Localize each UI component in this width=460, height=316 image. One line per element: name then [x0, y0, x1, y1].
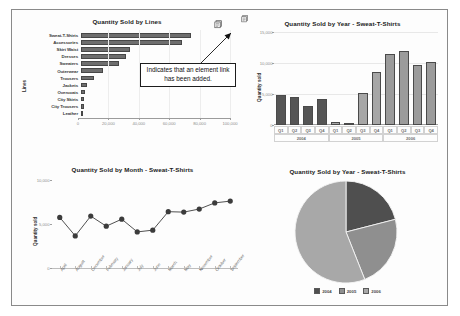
legend-label: 2006	[371, 289, 381, 294]
bar-category-label: Sweaters	[30, 61, 81, 66]
bar-track	[81, 46, 230, 53]
legend-swatch	[363, 288, 369, 294]
bar[interactable]	[81, 97, 84, 102]
axis-tick-label: 40,000	[132, 121, 145, 126]
chart-panel-quantity-sold-by-year-pie[interactable]: Quantity Sold by Year - Sweat-T-Shirts 2…	[250, 162, 445, 302]
bar[interactable]	[399, 51, 409, 125]
axis-label-lines-y: Lines	[22, 80, 27, 92]
axis-tick-mark	[272, 94, 274, 95]
bar-category-label: City Trousers	[30, 104, 81, 109]
axis-tick-label-quarter: Q3	[411, 126, 425, 134]
bar[interactable]	[81, 104, 84, 109]
axis-tick-label-year: 2004	[274, 134, 329, 142]
axis-tick-mark	[108, 118, 109, 120]
data-point-marker[interactable]	[119, 217, 124, 222]
element-link-badge-icon-year-bars[interactable]	[241, 15, 249, 23]
bar[interactable]	[426, 62, 436, 125]
axis-tick-label: 5,000	[39, 222, 49, 227]
axis-tick-mark	[78, 118, 79, 120]
legend-item[interactable]: 2004	[314, 288, 332, 294]
data-point-marker[interactable]	[104, 224, 109, 229]
pie-slices	[294, 180, 398, 284]
data-point-marker[interactable]	[150, 228, 155, 233]
bar[interactable]	[372, 72, 382, 125]
axis-tick-label: 100,000	[222, 121, 237, 126]
callout-annotation-text: Indicates that an element link has been …	[144, 66, 232, 83]
bar-category-label: Trousers	[30, 76, 81, 81]
axis-tick-label-quarter: Q3	[301, 126, 315, 134]
chart-panel-quantity-sold-by-month[interactable]: Quantity Sold by Month - Sweat-T-Shirts …	[20, 162, 245, 302]
bar[interactable]	[81, 40, 182, 45]
bar-track	[81, 110, 230, 117]
data-point-marker[interactable]	[135, 229, 140, 234]
bar[interactable]	[81, 83, 87, 88]
axis-tick-label: 10,000	[37, 178, 50, 183]
bar[interactable]	[358, 93, 368, 125]
axis-tick-label-quarter: Q2	[342, 126, 356, 134]
axis-tick-label: 10,000	[260, 61, 273, 66]
bar[interactable]	[81, 111, 83, 116]
data-point-marker[interactable]	[228, 199, 233, 204]
bar[interactable]	[344, 123, 354, 125]
plot-area-pie	[294, 180, 398, 284]
bar[interactable]	[81, 54, 126, 59]
legend-item[interactable]: 2005	[339, 288, 357, 294]
bar-category-label: Accessories	[30, 40, 81, 45]
element-link-badge-icon-lines[interactable]	[214, 20, 223, 29]
axis-tick-mark	[272, 63, 274, 64]
chart-title-pie: Quantity Sold by Year - Sweat-T-Shirts	[250, 168, 445, 175]
axis-tick-label-year: 2005	[329, 134, 384, 142]
gridline	[274, 32, 438, 33]
bar-category-label: Leather	[30, 111, 81, 116]
bar-category-label: Outerwear	[30, 69, 81, 74]
chart-panel-quantity-sold-by-year-bars[interactable]: Quantity Sold by Year - Sweat-T-Shirts Q…	[240, 14, 445, 157]
data-point-marker[interactable]	[88, 213, 93, 218]
bar-track	[81, 103, 230, 110]
axis-ticks-year-bars-years: 200420052006	[274, 134, 438, 142]
axis-label-year-bars-y: Quantity sold	[257, 73, 262, 102]
callout-annotation: Indicates that an element link has been …	[140, 63, 236, 87]
bar[interactable]	[413, 65, 423, 125]
axis-tick-label-year: 2006	[383, 134, 438, 142]
legend-swatch	[339, 288, 345, 294]
data-point-marker[interactable]	[166, 209, 171, 214]
axis-tick-label-quarter: Q2	[288, 126, 302, 134]
axis-ticks-year-bars-quarters: Q1Q2Q3Q4Q1Q2Q3Q4Q1Q2Q3Q4	[274, 126, 438, 134]
axis-tick-label-quarter: Q3	[356, 126, 370, 134]
data-point-marker[interactable]	[73, 233, 78, 238]
gridline	[108, 30, 109, 118]
axis-tick-mark	[139, 118, 140, 120]
bar[interactable]	[276, 95, 286, 125]
data-point-marker[interactable]	[212, 200, 217, 205]
bar-track	[81, 32, 230, 39]
bar[interactable]	[331, 122, 341, 125]
bar-track	[81, 53, 230, 60]
axis-tick-label-quarter: Q4	[370, 126, 384, 134]
bar[interactable]	[385, 54, 395, 125]
bar[interactable]	[81, 47, 130, 52]
axis-tick-label: 0	[77, 121, 79, 126]
axis-lines-x: 020,00040,00060,00080,000100,000	[78, 118, 230, 138]
data-point-marker[interactable]	[197, 206, 202, 211]
bar[interactable]	[81, 68, 103, 73]
bar[interactable]	[81, 90, 85, 95]
bar[interactable]	[303, 106, 313, 125]
bar[interactable]	[81, 61, 119, 66]
legend-item[interactable]: 2006	[363, 288, 381, 294]
bar-category-label: Skirt Waist	[30, 47, 81, 52]
bar[interactable]	[81, 33, 191, 38]
axis-tick-mark	[50, 224, 53, 225]
chart-title-month: Quantity Sold by Month - Sweat-T-Shirts	[20, 166, 245, 173]
data-point-marker[interactable]	[57, 215, 62, 220]
bar[interactable]	[317, 99, 327, 125]
bar[interactable]	[81, 76, 94, 81]
data-point-marker[interactable]	[181, 210, 186, 215]
bar-track	[81, 39, 230, 46]
axis-tick-mark	[230, 118, 231, 120]
bar-category-label: Jackets	[30, 83, 81, 88]
axis-tick-label: 60,000	[163, 121, 176, 126]
bar[interactable]	[290, 97, 300, 125]
axis-line-lines-x	[78, 118, 230, 119]
axis-tick-label-quarter: Q1	[329, 126, 343, 134]
chart-title-lines: Quantity Sold by Lines	[20, 18, 234, 25]
